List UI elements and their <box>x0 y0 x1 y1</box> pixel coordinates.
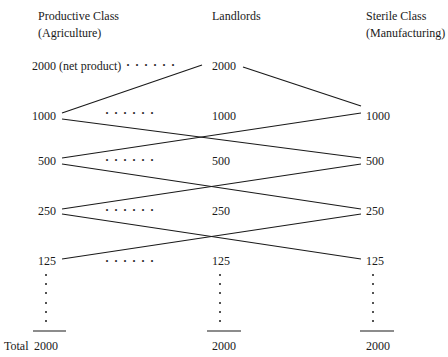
flow-line-productive1000-to-landlords2000 <box>62 65 202 113</box>
vertical-dots-landlords <box>219 274 221 322</box>
flow-line-landlords2000-to-sterile1000 <box>243 67 361 106</box>
vertical-dots-productive <box>45 274 47 322</box>
flow-line-productive1000-to-sterile500 <box>62 119 361 158</box>
vertical-dots-sterile <box>372 274 374 322</box>
flow-line-sterile1000-to-productive500 <box>62 113 361 158</box>
flow-diagram <box>0 0 448 357</box>
